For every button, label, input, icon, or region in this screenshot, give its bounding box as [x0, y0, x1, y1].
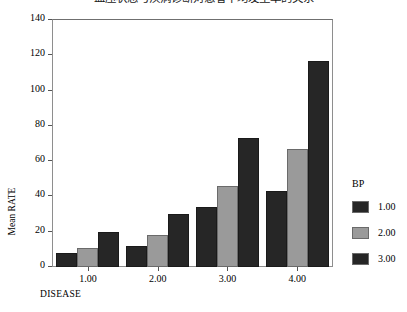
y-axis-tick-mark	[48, 90, 52, 91]
x-axis-tick-label: 4.00	[273, 273, 321, 285]
y-axis-tick-mark	[48, 231, 52, 232]
y-axis-tick-mark	[48, 19, 52, 20]
bar-group	[196, 20, 259, 267]
bar[interactable]	[308, 61, 329, 267]
legend-item[interactable]: 2.00	[352, 227, 407, 239]
bar[interactable]	[266, 191, 287, 267]
y-axis-tick-label: 80	[35, 118, 45, 130]
bar-group	[126, 20, 189, 267]
y-axis-tick-label: 100	[30, 83, 45, 95]
y-axis-tick-mark	[48, 160, 52, 161]
bar[interactable]	[238, 138, 259, 267]
y-axis-tick-label: 0	[40, 259, 45, 271]
bar[interactable]	[126, 246, 147, 267]
y-axis-tick-mark	[48, 54, 52, 55]
bar[interactable]	[287, 149, 308, 267]
bar-group	[266, 20, 329, 267]
legend-label: 2.00	[378, 227, 396, 239]
bar-group	[56, 20, 119, 267]
legend-swatch	[352, 201, 369, 213]
legend-swatch	[352, 227, 369, 239]
y-axis-tick-label: 140	[30, 12, 45, 24]
y-axis-title: Mean RATE	[7, 172, 18, 252]
legend-item[interactable]: 3.00	[352, 253, 407, 265]
x-axis-tick-mark	[297, 267, 298, 271]
x-axis-tick-mark	[227, 267, 228, 271]
bar[interactable]	[168, 214, 189, 267]
x-axis: 1.002.003.004.00	[53, 267, 332, 297]
legend-label: 3.00	[378, 253, 396, 265]
legend-label: 1.00	[378, 201, 396, 213]
bar-chart: 血压状态与疾病诊断对患者平均发生率的关系 020406080100120140 …	[0, 0, 407, 312]
bars-layer	[53, 20, 332, 267]
y-axis-tick-mark	[48, 125, 52, 126]
chart-title: 血压状态与疾病诊断对患者平均发生率的关系	[0, 0, 407, 5]
legend: BP 1.002.003.00	[352, 178, 407, 279]
x-axis-title: DISEASE	[40, 289, 81, 300]
bar[interactable]	[217, 186, 238, 267]
x-axis-tick-mark	[88, 267, 89, 271]
y-axis-tick-label: 120	[30, 47, 45, 59]
y-axis-tick-mark	[48, 195, 52, 196]
bar[interactable]	[196, 207, 217, 267]
y-axis-tick-label: 40	[35, 188, 45, 200]
y-axis-tick-label: 20	[35, 224, 45, 236]
legend-title: BP	[352, 178, 407, 190]
chart-title-clip: 血压状态与疾病诊断对患者平均发生率的关系	[0, 0, 407, 8]
bar[interactable]	[56, 253, 77, 267]
bar[interactable]	[98, 232, 119, 267]
x-axis-tick-label: 2.00	[134, 273, 182, 285]
y-axis-tick-mark	[48, 266, 52, 267]
legend-swatch	[352, 253, 369, 265]
y-axis-tick-label: 60	[35, 153, 45, 165]
bar[interactable]	[77, 248, 98, 267]
x-axis-tick-label: 1.00	[64, 273, 112, 285]
x-axis-tick-label: 3.00	[203, 273, 251, 285]
legend-item[interactable]: 1.00	[352, 201, 407, 213]
bar[interactable]	[147, 235, 168, 267]
x-axis-tick-mark	[158, 267, 159, 271]
